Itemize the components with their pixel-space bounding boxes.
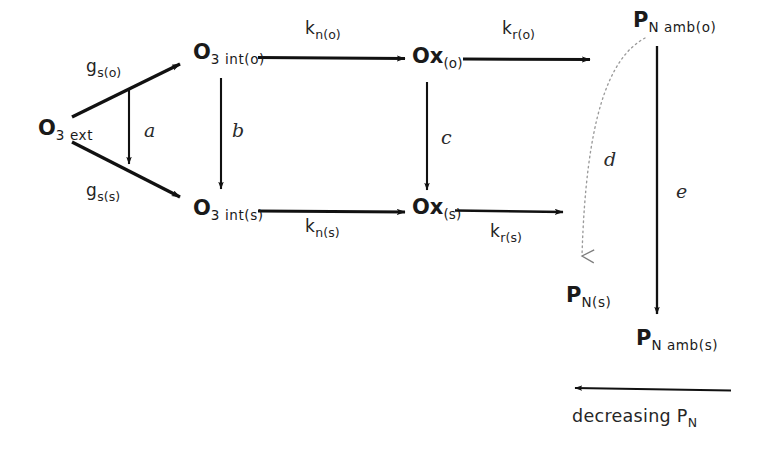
node-o3-ext-sub: 3 ext [56,127,93,143]
node-pn-amb-s-sub: N amb(s) [651,337,718,353]
rate-kn-o-base: k [305,18,315,38]
edge-kr-s [455,211,563,213]
rate-kr-o-base: k [502,18,512,38]
diagram-canvas: O3 ext O3 int(o) O3 int(s) Ox(o) Ox(s) P… [0,0,769,452]
path-label-d: d [604,150,616,169]
edge-decreasing-pn [575,388,731,391]
node-ox-o-base: Ox [412,44,443,68]
rate-label-kr-s: kr(s) [490,223,521,240]
rate-label-kn-s: kn(s) [305,218,339,235]
node-ox-s-base: Ox [412,195,443,219]
node-o3-int-o: O3 int(o) [193,42,265,63]
decreasing-pn-caption: decreasing PN [572,408,697,426]
node-pn-amb-o-base: P [633,8,648,32]
rate-gs-s-sub: s(s) [97,189,120,204]
rate-label-gs-s: gs(s) [86,182,120,199]
rate-kn-s-base: k [305,216,315,236]
node-o3-int-s-sub: 3 int(s) [211,207,264,223]
edge-kr-o [463,59,590,60]
edge-d-dotted [582,38,645,256]
rate-label-kr-o: kr(o) [502,20,534,37]
rate-kr-s-sub: r(s) [500,230,521,245]
rate-gs-o-sub: s(o) [97,65,121,80]
node-pn-amb-s: PN amb(s) [636,328,718,349]
rate-gs-s-base: g [86,180,97,200]
rate-label-kn-o: kn(o) [305,20,340,37]
node-ox-o-sub: (o) [443,55,462,71]
node-o3-int-o-base: O [193,40,211,64]
rate-kn-o-sub: n(o) [315,27,340,42]
node-o3-int-s: O3 int(s) [193,198,264,219]
node-pn-s-base: P [566,283,581,307]
node-pn-amb-o: PN amb(o) [633,10,716,31]
node-pn-s: PN(s) [566,285,611,306]
decreasing-pn-base: decreasing P [572,406,688,426]
node-ox-s: Ox(s) [412,197,462,218]
node-ox-o: Ox(o) [412,46,463,67]
node-pn-s-sub: N(s) [581,294,611,310]
decreasing-pn-sub: N [688,415,698,430]
rate-kr-o-sub: r(o) [512,27,535,42]
rate-kr-s-base: k [490,221,500,241]
node-pn-amb-s-base: P [636,326,651,350]
path-label-b: b [232,121,244,140]
rate-label-gs-o: gs(o) [86,58,121,75]
path-label-e: e [676,182,687,201]
node-o3-ext: O3 ext [38,118,93,139]
edge-kn-o [258,58,405,59]
rate-kn-s-sub: n(s) [315,225,339,240]
rate-gs-o-base: g [86,56,97,76]
node-ox-s-sub: (s) [443,206,461,222]
path-label-a: a [144,121,155,140]
node-o3-ext-base: O [38,116,56,140]
node-o3-int-s-base: O [193,196,211,220]
node-pn-amb-o-sub: N amb(o) [648,19,716,35]
node-o3-int-o-sub: 3 int(o) [211,51,265,67]
path-label-c: c [441,128,452,147]
edge-kn-s [258,211,405,212]
